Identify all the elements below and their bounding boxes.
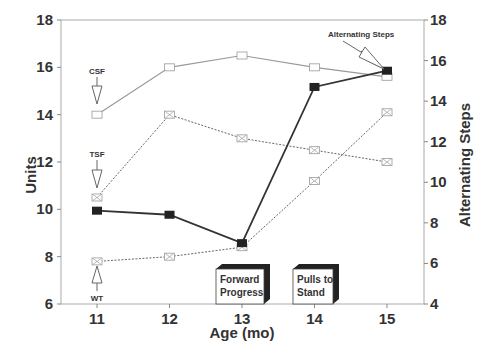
series-line-csf — [97, 56, 387, 115]
y-tick-label: 10 — [36, 200, 53, 217]
arrow-head — [92, 170, 102, 188]
y2-tick-label: 16 — [430, 52, 447, 69]
annotation-alternating-steps: Alternating Steps — [328, 30, 395, 39]
series-line-tsf — [97, 115, 387, 198]
arrow-shaft — [343, 41, 364, 54]
y2-tick-label: 10 — [430, 173, 447, 190]
marker-square — [237, 52, 247, 59]
arrow-head — [92, 266, 102, 283]
arrow-head — [359, 47, 384, 69]
y2-axis-title: Alternating Steps — [456, 103, 473, 227]
y2-tick-label: 8 — [430, 214, 438, 231]
marker-filled-square — [165, 211, 175, 219]
x-tick-label: 12 — [161, 310, 178, 327]
x-axis-title: Age (mo) — [210, 324, 275, 341]
y-tick-label: 14 — [36, 106, 53, 123]
y-tick-label: 16 — [36, 58, 53, 75]
y-tick-label: 8 — [45, 248, 53, 265]
milestone-forward-progress-label-1: Forward — [220, 274, 259, 285]
annotation-tsf: TSF — [89, 150, 104, 159]
milestone-pulls-to-stand-label-2: Stand — [297, 287, 325, 298]
y2-tick-label: 14 — [430, 92, 447, 109]
series-line-alternating-steps — [97, 71, 387, 243]
milestone-forward-progress-label-2: Progress — [220, 287, 264, 298]
y-tick-label: 6 — [45, 295, 53, 312]
marker-filled-square — [237, 239, 247, 247]
series-lines — [97, 56, 387, 262]
milestone-pulls-to-stand-label-1: Pulls to — [297, 274, 333, 285]
marker-square — [92, 111, 102, 118]
annotation-csf: CSF — [89, 67, 105, 76]
arrow-head — [92, 86, 102, 104]
marker-square — [165, 64, 175, 71]
y2-tick-label: 12 — [430, 133, 447, 150]
annotation-wt: WT — [91, 294, 104, 303]
y2-tick-label: 18 — [430, 11, 447, 28]
x-tick-label: 14 — [306, 310, 323, 327]
x-tick-label: 15 — [379, 310, 396, 327]
series-markers — [92, 52, 392, 265]
y2-tick-label: 6 — [430, 254, 438, 271]
x-tick-label: 11 — [89, 310, 105, 327]
marker-filled-square — [92, 207, 102, 215]
y-tick-label: 18 — [36, 11, 53, 28]
marker-filled-square — [310, 83, 320, 91]
y2-tick-label: 4 — [430, 295, 439, 312]
y-axis-title: Units — [22, 156, 39, 194]
annotations: CSFTSFWTAlternating StepsForwardProgress… — [89, 30, 395, 304]
chart-canvas: 68101214161846810121416181112131415 CSFT… — [0, 0, 481, 352]
marker-square — [310, 64, 320, 71]
